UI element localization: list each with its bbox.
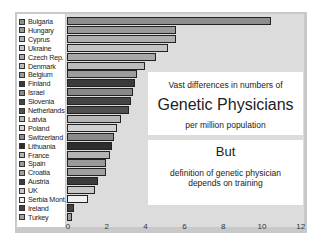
x-tick-label: 2 bbox=[105, 222, 109, 231]
legend-label: France bbox=[28, 151, 49, 160]
x-tick-label: 6 bbox=[182, 222, 186, 231]
bar bbox=[67, 204, 74, 212]
legend-label: Slovenia bbox=[28, 97, 54, 106]
legend-swatch bbox=[19, 54, 25, 60]
legend-item: Switzerland bbox=[19, 133, 63, 142]
legend-item: France bbox=[19, 151, 49, 160]
annotation-line-3: depends on training bbox=[148, 178, 303, 188]
legend: BulgariaHungaryCyprusUkraineCzech Rep.De… bbox=[17, 14, 65, 227]
bar bbox=[67, 53, 156, 61]
bar bbox=[67, 17, 271, 25]
legend-item: Croatia bbox=[19, 168, 50, 177]
legend-item: Israel bbox=[19, 88, 44, 97]
bar bbox=[67, 79, 135, 87]
legend-item: Lithuania bbox=[19, 142, 55, 151]
bar bbox=[67, 26, 176, 34]
bar bbox=[67, 124, 117, 132]
legend-swatch bbox=[19, 45, 25, 51]
legend-label: Ukraine bbox=[28, 44, 51, 53]
legend-item: Denmark bbox=[19, 62, 56, 71]
legend-swatch bbox=[19, 170, 25, 176]
bar bbox=[67, 177, 98, 185]
legend-swatch bbox=[19, 134, 25, 140]
legend-item: Poland bbox=[19, 124, 49, 133]
legend-item: Bulgaria bbox=[19, 17, 53, 26]
legend-label: Turkey bbox=[28, 213, 49, 222]
legend-swatch bbox=[19, 214, 25, 220]
legend-item: Austria bbox=[19, 177, 49, 186]
legend-item: Spain bbox=[19, 159, 45, 168]
bar bbox=[67, 106, 129, 114]
legend-swatch bbox=[19, 99, 25, 105]
bar bbox=[67, 133, 114, 141]
x-tick-label: 10 bbox=[258, 222, 267, 231]
legend-item: Belgium bbox=[19, 70, 53, 79]
legend-label: Hungary bbox=[28, 26, 54, 35]
legend-swatch bbox=[19, 161, 25, 167]
bar bbox=[67, 70, 137, 78]
legend-label: Serbia Mont. bbox=[28, 195, 66, 204]
legend-label: Bulgaria bbox=[28, 17, 53, 26]
legend-label: Switzerland bbox=[28, 133, 63, 142]
legend-item: UK bbox=[19, 186, 38, 195]
legend-swatch bbox=[19, 116, 25, 122]
legend-swatch bbox=[19, 90, 25, 96]
legend-swatch bbox=[19, 19, 25, 25]
legend-label: Cyprus bbox=[28, 35, 50, 44]
legend-item: Netherlands bbox=[19, 106, 65, 115]
legend-label: Czech Rep. bbox=[28, 53, 64, 62]
legend-swatch bbox=[19, 152, 25, 158]
legend-label: Croatia bbox=[28, 168, 50, 177]
annotation-line-2: definition of genetic physician bbox=[148, 168, 303, 178]
x-tick-label: 4 bbox=[143, 222, 147, 231]
bar bbox=[67, 159, 106, 167]
annotation-but: But bbox=[148, 144, 303, 160]
bar bbox=[67, 151, 110, 159]
legend-item: Ireland bbox=[19, 204, 49, 213]
legend-swatch bbox=[19, 108, 25, 114]
legend-item: Finland bbox=[19, 79, 50, 88]
legend-swatch bbox=[19, 143, 25, 149]
legend-item: Latvia bbox=[19, 115, 46, 124]
legend-item: Ukraine bbox=[19, 44, 51, 53]
bar bbox=[67, 97, 131, 105]
legend-swatch bbox=[19, 179, 25, 185]
bar bbox=[67, 195, 88, 203]
legend-label: Denmark bbox=[28, 62, 56, 71]
legend-label: UK bbox=[28, 186, 38, 195]
bar bbox=[67, 168, 106, 176]
bar bbox=[67, 186, 95, 194]
legend-swatch bbox=[19, 205, 25, 211]
legend-label: Belgium bbox=[28, 70, 53, 79]
legend-label: Austria bbox=[28, 177, 49, 186]
bar bbox=[67, 213, 72, 221]
legend-item: Serbia Mont. bbox=[19, 195, 66, 204]
annotation-line-3: per million population bbox=[148, 120, 303, 130]
bar bbox=[67, 44, 168, 52]
legend-label: Spain bbox=[28, 159, 45, 168]
legend-label: Latvia bbox=[28, 115, 46, 124]
legend-swatch bbox=[19, 125, 25, 131]
legend-swatch bbox=[19, 27, 25, 33]
annotation-line-1: Vast differences in numbers of bbox=[148, 80, 303, 90]
bar bbox=[67, 115, 121, 123]
legend-swatch bbox=[19, 36, 25, 42]
bar bbox=[67, 62, 145, 70]
annotation-box-main: Vast differences in numbers of Genetic P… bbox=[148, 72, 303, 135]
bar bbox=[67, 88, 133, 96]
legend-swatch bbox=[19, 197, 25, 203]
bar bbox=[67, 35, 176, 43]
x-tick-label: 12 bbox=[296, 222, 305, 231]
legend-label: Poland bbox=[28, 124, 49, 133]
legend-swatch bbox=[19, 81, 25, 87]
legend-label: Finland bbox=[28, 79, 50, 88]
legend-item: Slovenia bbox=[19, 97, 54, 106]
annotation-title: Genetic Physicians bbox=[148, 95, 303, 115]
x-tick-label: 8 bbox=[221, 222, 225, 231]
legend-label: Lithuania bbox=[28, 142, 55, 151]
legend-label: Ireland bbox=[28, 204, 49, 213]
bar bbox=[67, 142, 112, 150]
legend-item: Cyprus bbox=[19, 35, 50, 44]
legend-label: Israel bbox=[28, 88, 44, 97]
x-tick-label: 0 bbox=[66, 222, 70, 231]
